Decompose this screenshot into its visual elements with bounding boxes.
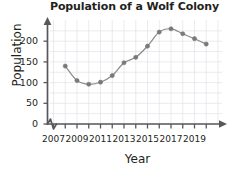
data-point: [110, 73, 114, 77]
data-point: [145, 44, 149, 48]
data-point: [63, 64, 67, 68]
y-axis-arrow: [44, 17, 52, 25]
data-point: [122, 61, 126, 65]
data-point: [75, 78, 79, 82]
gridlines: [50, 20, 222, 124]
x-axis-label: Year: [45, 152, 229, 166]
wolf-population-chart: Population of a Wolf Colony Population 0…: [0, 0, 229, 173]
data-point: [87, 82, 91, 86]
axis-ticks: [44, 41, 207, 128]
x-tick-label: 2019: [180, 134, 210, 144]
data-point: [192, 37, 196, 41]
x-axis-arrow: [219, 120, 227, 128]
y-tick-label: 150: [8, 56, 38, 67]
y-tick-label: 100: [8, 77, 38, 88]
data-point: [157, 30, 161, 34]
data-point: [204, 42, 208, 46]
data-point: [98, 80, 102, 84]
y-tick-label: 0: [8, 118, 38, 129]
data-point: [181, 32, 185, 36]
data-point: [134, 55, 138, 59]
y-tick-label: 50: [8, 97, 38, 108]
data-point: [169, 27, 173, 31]
y-tick-label: 200: [8, 35, 38, 46]
